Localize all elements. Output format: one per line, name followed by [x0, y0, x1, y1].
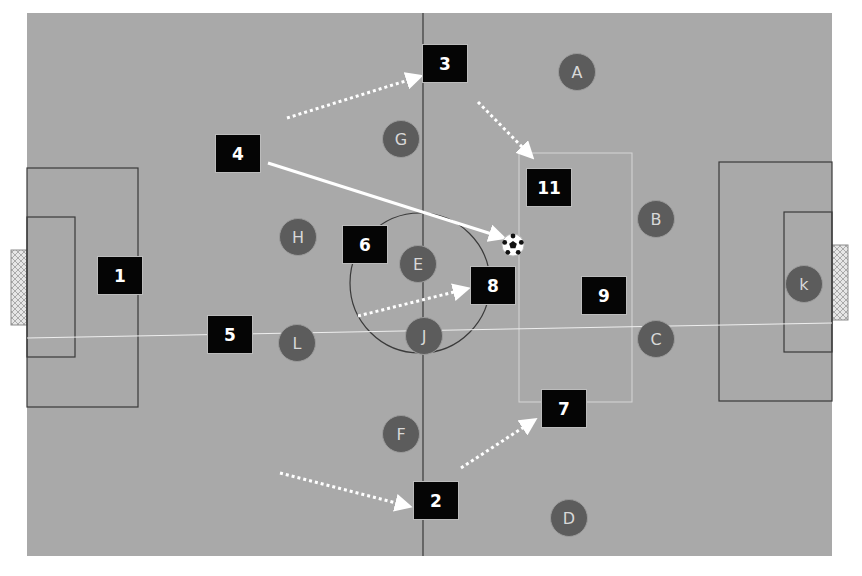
team-player-9: 9: [581, 276, 627, 315]
opponent-f: F: [382, 415, 420, 453]
opponent-c: C: [637, 320, 675, 358]
team-player-2: 2: [413, 481, 459, 520]
opponent-g: G: [382, 120, 420, 158]
opponent-l: L: [278, 324, 316, 362]
team-player-4: 4: [215, 134, 261, 173]
left-goal-net: [11, 250, 27, 325]
team-player-7: 7: [541, 389, 587, 428]
right-goal-net: [832, 245, 848, 320]
opponent-e: E: [399, 245, 437, 283]
opponent-b: B: [637, 200, 675, 238]
pitch-surface: [27, 13, 832, 556]
soccer-ball-icon: [502, 234, 524, 256]
opponent-a: A: [558, 53, 596, 91]
opponent-h: H: [279, 218, 317, 256]
team-player-5: 5: [207, 315, 253, 354]
team-player-6: 6: [342, 225, 388, 264]
opponent-d: D: [550, 499, 588, 537]
team-player-3: 3: [422, 44, 468, 83]
opponent-goalkeeper-k: k: [785, 265, 823, 303]
team-player-8: 8: [470, 266, 516, 305]
team-player-11: 11: [526, 168, 572, 207]
opponent-j: J: [405, 317, 443, 355]
team-player-1: 1: [97, 256, 143, 295]
